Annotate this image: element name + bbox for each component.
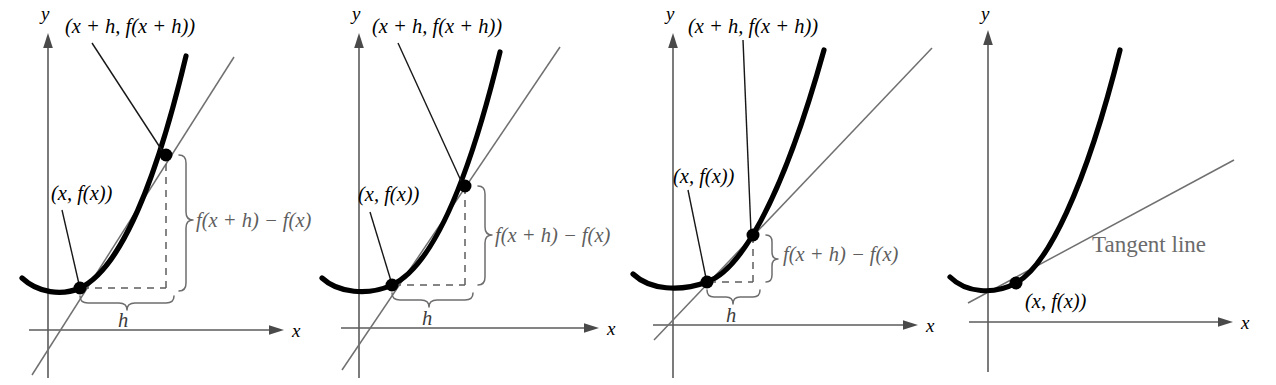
x-axis-label: x (291, 320, 301, 341)
point-x-dot (701, 276, 714, 289)
y-axis-label: y (664, 3, 675, 24)
point-x-plus-h-dot (160, 149, 173, 162)
rise-label: f(x + h) − f(x) (495, 224, 610, 247)
x-axis-label: x (606, 318, 616, 339)
panel-2-svg: y x (x + h, f(x + h)) (x, f(x)) f(x + h)… (310, 0, 640, 385)
point-x-plus-h-label: (x + h, f(x + h)) (372, 15, 502, 38)
x-axis-label: x (925, 315, 935, 336)
run-label: h (422, 307, 432, 329)
function-curve (22, 56, 186, 292)
leader-upper (92, 43, 163, 152)
secant-line (654, 48, 932, 340)
y-axis (983, 30, 993, 372)
figure-secant-to-tangent: y x (x + h, f(x + h)) (x, f(x)) f(x + h)… (0, 0, 1276, 385)
rise-brace (478, 186, 492, 285)
point-x-plus-h-dot (747, 229, 760, 242)
y-axis (354, 33, 364, 378)
rise-label: f(x + h) − f(x) (783, 243, 898, 266)
point-x-plus-h-label: (x + h, f(x + h)) (65, 15, 195, 38)
point-x-label: (x, f(x)) (1025, 290, 1087, 313)
rise-brace (179, 155, 193, 291)
function-curve (322, 52, 500, 292)
x-axis (29, 325, 284, 335)
leader-upper (398, 43, 462, 183)
leader-upper (743, 40, 751, 232)
leader-lower (370, 212, 391, 281)
panel-secant-medium-h: y x (x + h, f(x + h)) (x, f(x)) f(x + h)… (310, 0, 630, 385)
rise-label: f(x + h) − f(x) (196, 209, 311, 232)
run-label: h (726, 304, 736, 326)
point-x-dot (386, 279, 399, 292)
point-x-label: (x, f(x)) (358, 183, 420, 206)
point-x-dot (74, 282, 87, 295)
leader-lower (688, 190, 706, 278)
panel-tangent-line: y x (x, f(x)) Tangent line (940, 0, 1276, 385)
point-x-label: (x, f(x)) (51, 182, 113, 205)
tangent-line-label: Tangent line (1092, 232, 1206, 257)
point-x-label: (x, f(x)) (673, 165, 735, 188)
panel-4-svg: y x (x, f(x)) Tangent line (940, 0, 1276, 385)
rise-brace (766, 235, 778, 282)
y-axis (43, 33, 53, 378)
run-label: h (118, 309, 128, 331)
y-axis-label: y (39, 3, 50, 24)
panel-secant-large-h: y x (x + h, f(x + h)) (x, f(x)) f(x + h)… (0, 0, 320, 385)
run-brace (392, 293, 473, 307)
point-x-dot (1010, 277, 1023, 290)
panel-secant-small-h: y x (x + h, f(x + h)) (x, f(x)) f(x + h)… (620, 0, 950, 385)
run-brace (80, 296, 174, 310)
y-axis-label: y (979, 3, 990, 24)
y-axis (668, 33, 678, 378)
run-brace (707, 290, 760, 304)
x-axis (341, 323, 599, 333)
panel-1-svg: y x (x + h, f(x + h)) (x, f(x)) f(x + h)… (0, 0, 320, 385)
x-axis (969, 317, 1233, 327)
y-axis-label: y (350, 3, 361, 24)
point-x-plus-h-dot (459, 180, 472, 193)
point-x-plus-h-label: (x + h, f(x + h)) (688, 15, 818, 38)
x-axis-label: x (1240, 312, 1250, 333)
panel-3-svg: y x (x + h, f(x + h)) (x, f(x)) f(x + h)… (620, 0, 960, 385)
x-axis (653, 320, 918, 330)
leader-lower (62, 210, 79, 284)
